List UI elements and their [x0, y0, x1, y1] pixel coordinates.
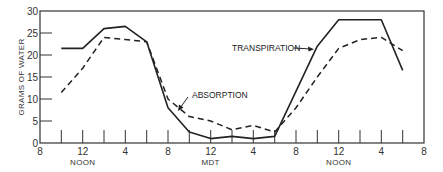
svg-text:4: 4: [123, 146, 129, 157]
svg-text:4: 4: [379, 146, 385, 157]
svg-text:8: 8: [293, 146, 299, 157]
transpiration-line: [61, 20, 402, 139]
y-axis-labels: 0 5 10 15 20 25 30: [27, 6, 39, 149]
svg-text:10: 10: [27, 94, 39, 105]
svg-text:8: 8: [37, 146, 43, 157]
plot-frame: [40, 11, 424, 143]
chart: 0 5 10 15 20 25 30 GRAMS OF WATER 8 12 4…: [0, 0, 443, 172]
svg-text:4: 4: [251, 146, 257, 157]
svg-text:12: 12: [77, 146, 89, 157]
svg-text:12: 12: [205, 146, 217, 157]
transpiration-label: TRANSPIRATION: [232, 43, 300, 53]
y-axis-ticks: [40, 33, 52, 121]
x-axis-labels: 8 12 4 8 12 4 8 12 4 8 NOON MDT NOON: [37, 146, 427, 167]
svg-text:15: 15: [27, 72, 39, 83]
svg-text:8: 8: [421, 146, 427, 157]
y-axis-title: GRAMS OF WATER: [17, 38, 26, 115]
svg-text:25: 25: [27, 28, 39, 39]
svg-text:5: 5: [32, 116, 38, 127]
svg-text:20: 20: [27, 50, 39, 61]
svg-text:30: 30: [27, 6, 39, 17]
svg-text:12: 12: [333, 146, 345, 157]
noon-label: NOON: [326, 158, 351, 167]
transpiration-arrowhead: [308, 47, 314, 52]
absorption-label: ABSORPTION: [192, 90, 248, 100]
svg-text:8: 8: [165, 146, 171, 157]
mdt-label: MDT: [202, 158, 220, 167]
noon-label: NOON: [70, 158, 95, 167]
